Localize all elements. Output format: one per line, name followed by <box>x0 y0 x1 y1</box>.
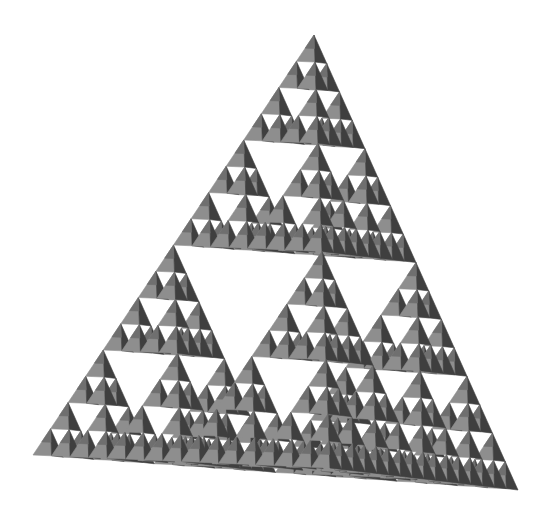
face-shade <box>316 333 325 347</box>
face-right <box>418 317 431 345</box>
face-shade <box>238 221 247 235</box>
face-shade <box>306 62 315 76</box>
face-shade <box>278 304 287 318</box>
face-shade <box>317 360 326 374</box>
face-shade <box>308 116 317 130</box>
face-right <box>246 194 259 222</box>
face-shade <box>412 398 421 412</box>
face-shade <box>42 429 51 443</box>
face-right <box>318 143 331 171</box>
face-shade <box>243 357 252 371</box>
face-shade <box>460 430 469 444</box>
face-shade <box>331 92 340 106</box>
face-shade <box>411 371 420 385</box>
face-shade <box>95 377 104 391</box>
sierpinski-tetrahedron <box>0 0 547 507</box>
face-right <box>186 273 199 301</box>
face-shade <box>235 140 244 154</box>
face-right <box>365 149 378 177</box>
face-shade <box>372 315 381 329</box>
face-shade <box>310 170 319 184</box>
face-right <box>265 385 278 413</box>
face-shade <box>337 368 346 382</box>
face-shade <box>409 317 418 331</box>
face-shade <box>97 431 106 445</box>
face-shade <box>182 219 191 233</box>
face-shade <box>459 403 468 417</box>
face-shade <box>169 353 178 367</box>
face-right <box>469 430 482 458</box>
face-shade <box>60 430 69 444</box>
face-shade <box>77 376 86 390</box>
face-shade <box>190 302 199 316</box>
face-right <box>429 291 442 319</box>
face-shade <box>394 397 403 411</box>
face-right <box>116 378 129 406</box>
face-shade <box>357 176 366 190</box>
face-shade <box>165 245 174 259</box>
face-right <box>254 411 267 439</box>
face-shade <box>311 197 320 211</box>
face-shade <box>237 194 246 208</box>
face-right <box>291 412 304 440</box>
face-right <box>391 206 404 234</box>
face-right <box>176 299 189 327</box>
face-shade <box>201 220 210 234</box>
face-right <box>348 308 361 336</box>
face-shade <box>300 386 309 400</box>
face-right <box>105 404 118 432</box>
face-right <box>212 330 225 358</box>
face-shade <box>441 403 450 417</box>
face-shade <box>260 197 269 211</box>
face-shade <box>437 428 446 442</box>
face-shade <box>217 166 226 180</box>
face-right <box>416 263 429 291</box>
face-right <box>403 234 416 262</box>
face-right <box>367 203 380 231</box>
face-right <box>454 348 467 376</box>
face-right <box>344 200 357 228</box>
face-right <box>314 35 327 63</box>
face-shade <box>200 193 209 207</box>
face-shade <box>166 272 175 286</box>
face-shade <box>198 385 207 399</box>
face-right <box>505 462 518 490</box>
face-right <box>335 280 348 308</box>
face-right <box>252 357 265 385</box>
face-shade <box>458 376 467 390</box>
face-shade <box>134 406 143 420</box>
face-shade <box>268 413 277 427</box>
face-right <box>378 177 391 205</box>
face-shade <box>339 308 348 322</box>
face-right <box>446 428 459 456</box>
face-shade <box>168 326 177 340</box>
face-shade <box>147 271 156 285</box>
face-shade <box>120 407 129 421</box>
face-right <box>142 406 155 434</box>
face-right <box>138 298 151 326</box>
face-shade <box>167 299 176 313</box>
face-shade <box>302 420 311 434</box>
face-shade <box>365 392 374 406</box>
face-right <box>326 360 339 388</box>
face-right <box>257 168 270 196</box>
face-shade <box>407 263 416 277</box>
face-right <box>352 120 365 148</box>
face-shade <box>413 425 422 439</box>
face-right <box>467 376 480 404</box>
face-right <box>103 350 116 378</box>
face-shade <box>314 279 323 293</box>
face-shade <box>288 61 297 75</box>
face-shade <box>390 422 399 436</box>
face-shade <box>271 115 280 129</box>
face-right <box>178 353 191 381</box>
face-shade <box>339 175 348 189</box>
face-shade <box>373 342 382 356</box>
face-shade <box>382 206 391 220</box>
face-right <box>480 405 493 433</box>
face-shade <box>171 407 180 421</box>
face-shade <box>315 306 324 320</box>
face-right <box>442 319 455 347</box>
face-shade <box>279 331 288 345</box>
face-right <box>340 92 353 120</box>
